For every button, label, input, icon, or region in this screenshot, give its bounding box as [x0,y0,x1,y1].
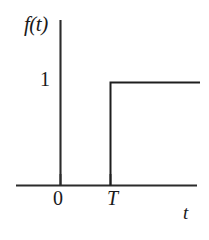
origin-label: 0 [53,188,63,208]
x-axis-tick-label-T: T [107,188,118,208]
x-axis-label: t [183,203,188,222]
step-function-chart [0,0,209,240]
y-axis-tick-label-one: 1 [40,69,50,89]
chart-background [0,0,209,240]
figure-canvas: f(t) 1 0 T t [0,0,209,240]
function-label: f(t) [24,14,48,35]
